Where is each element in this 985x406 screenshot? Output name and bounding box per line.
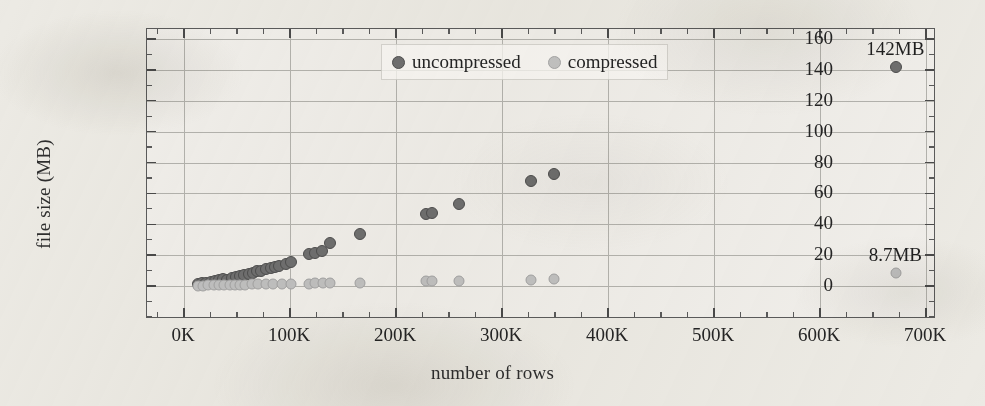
x-tick-minor — [236, 312, 237, 317]
x-tick-minor — [157, 312, 158, 317]
data-point-compressed — [427, 276, 438, 287]
x-tick-minor — [210, 29, 211, 34]
data-point-uncompressed — [354, 228, 366, 240]
y-tick-label: 100 — [805, 120, 834, 142]
y-tick-major — [147, 193, 156, 194]
x-tick-label: 400K — [586, 324, 628, 346]
x-tick-minor — [263, 312, 264, 317]
x-tick-minor — [448, 29, 449, 34]
x-tick-major — [501, 308, 502, 317]
y-tick-minor — [147, 270, 152, 271]
x-tick-minor — [660, 29, 661, 34]
data-point-uncompressed — [285, 256, 297, 268]
x-tick-minor — [475, 312, 476, 317]
x-tick-minor — [846, 29, 847, 34]
y-tick-minor — [929, 146, 934, 147]
y-axis-label: file size (MB) — [33, 104, 55, 284]
data-point-uncompressed — [426, 207, 438, 219]
data-point-compressed — [453, 275, 464, 286]
x-tick-major — [713, 308, 714, 317]
x-tick-minor — [369, 29, 370, 34]
annotation-uncompressed: 142MB — [866, 38, 924, 60]
legend-marker-uncompressed-icon — [392, 56, 405, 69]
data-point-compressed — [525, 274, 536, 285]
x-tick-major — [607, 308, 608, 317]
x-tick-label: 700K — [904, 324, 946, 346]
x-tick-minor — [793, 29, 794, 34]
legend-entry-uncompressed: uncompressed — [392, 51, 521, 73]
y-tick-minor — [929, 116, 934, 117]
y-tick-minor — [929, 270, 934, 271]
y-tick-major — [925, 193, 934, 194]
data-point-compressed — [548, 274, 559, 285]
y-tick-major — [925, 131, 934, 132]
y-tick-minor — [929, 301, 934, 302]
y-tick-major — [925, 100, 934, 101]
y-tick-label: 140 — [805, 58, 834, 80]
x-tick-minor — [766, 312, 767, 317]
x-tick-minor — [687, 312, 688, 317]
x-tick-label: 0K — [171, 324, 194, 346]
y-tick-label: 40 — [814, 212, 833, 234]
x-tick-major — [501, 29, 502, 38]
x-tick-minor — [448, 312, 449, 317]
x-tick-minor — [846, 312, 847, 317]
data-point-compressed — [354, 277, 365, 288]
gridline-vertical — [184, 29, 185, 317]
y-tick-major — [925, 224, 934, 225]
y-tick-major — [147, 100, 156, 101]
x-tick-label: 300K — [480, 324, 522, 346]
y-tick-major — [147, 131, 156, 132]
x-tick-minor — [740, 312, 741, 317]
y-tick-minor — [147, 177, 152, 178]
legend-entry-compressed: compressed — [548, 51, 658, 73]
y-tick-label: 160 — [805, 27, 834, 49]
legend-label-uncompressed: uncompressed — [412, 51, 521, 73]
y-tick-major — [925, 69, 934, 70]
data-point-compressed — [325, 278, 336, 289]
x-tick-minor — [581, 312, 582, 317]
y-tick-label: 120 — [805, 89, 834, 111]
y-tick-minor — [929, 208, 934, 209]
y-tick-label: 60 — [814, 181, 833, 203]
x-tick-minor — [554, 29, 555, 34]
y-tick-major — [925, 162, 934, 163]
y-tick-label: 80 — [814, 151, 833, 173]
x-tick-minor — [528, 312, 529, 317]
x-tick-minor — [263, 29, 264, 34]
x-tick-minor — [554, 312, 555, 317]
x-tick-minor — [766, 29, 767, 34]
gridline-vertical — [926, 29, 927, 317]
x-tick-major — [607, 29, 608, 38]
x-tick-minor — [740, 29, 741, 34]
chart-legend: uncompressed compressed — [381, 44, 668, 80]
x-tick-minor — [687, 29, 688, 34]
gridline-vertical — [714, 29, 715, 317]
data-point-uncompressed — [890, 61, 902, 73]
x-tick-minor — [369, 312, 370, 317]
x-tick-minor — [316, 312, 317, 317]
x-tick-major — [819, 308, 820, 317]
x-tick-minor — [872, 29, 873, 34]
y-tick-minor — [929, 54, 934, 55]
data-point-uncompressed — [453, 198, 465, 210]
y-tick-major — [925, 254, 934, 255]
x-tick-label: 600K — [798, 324, 840, 346]
x-tick-minor — [422, 312, 423, 317]
x-tick-label: 200K — [374, 324, 416, 346]
y-tick-major — [147, 254, 156, 255]
x-tick-minor — [210, 312, 211, 317]
y-tick-minor — [929, 239, 934, 240]
data-point-uncompressed — [548, 168, 560, 180]
x-tick-minor — [793, 312, 794, 317]
y-tick-label: 0 — [824, 274, 834, 296]
y-tick-minor — [147, 208, 152, 209]
x-tick-major — [183, 29, 184, 38]
x-tick-minor — [342, 29, 343, 34]
x-axis-label: number of rows — [0, 362, 985, 384]
x-tick-minor — [634, 29, 635, 34]
x-tick-major — [183, 308, 184, 317]
y-tick-label: 20 — [814, 243, 833, 265]
x-tick-major — [289, 29, 290, 38]
y-tick-minor — [147, 85, 152, 86]
